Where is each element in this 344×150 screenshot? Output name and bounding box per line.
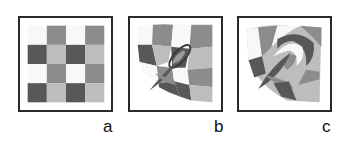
checkerboard-swirl-moderate [130,18,221,110]
checkerboard-swirl-strong [239,18,330,110]
checkerboard-undistorted [20,18,111,110]
panel-label-a: a [103,118,112,136]
panel-label-b: b [214,118,223,136]
panel-c [237,16,332,112]
panel-a [18,16,113,112]
panel-b [128,16,223,112]
panel-label-c: c [322,118,331,136]
